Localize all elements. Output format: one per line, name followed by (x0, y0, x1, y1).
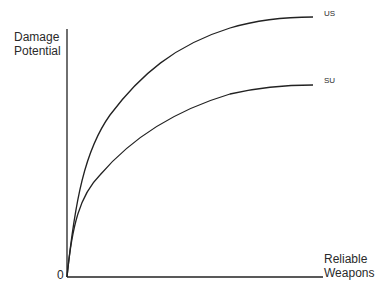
y-axis-label-line2: Potential (14, 44, 61, 58)
su-series-label: SU (324, 76, 335, 85)
su-curve (67, 85, 313, 277)
x-axis-label-line1: Reliable (324, 252, 374, 266)
x-axis-label: Reliable Weapons (324, 252, 374, 280)
x-axis-label-line2: Weapons (324, 266, 374, 280)
y-axis-label-line1: Damage (14, 30, 61, 44)
origin-label: 0 (57, 268, 64, 282)
us-series-label: US (324, 9, 335, 18)
us-curve (67, 17, 313, 277)
y-axis-label: Damage Potential (14, 30, 61, 58)
